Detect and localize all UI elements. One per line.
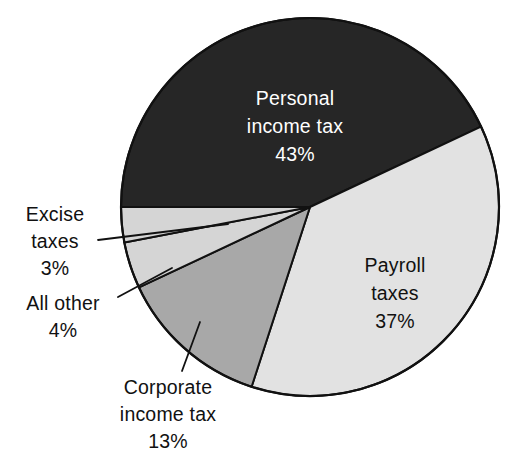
pie-chart: Personal income tax 43% Payroll taxes 37… <box>0 0 512 451</box>
pie-label-excise-taxes-line2: taxes <box>31 230 79 252</box>
pie-label-personal-income-tax-line1: Personal <box>256 87 335 109</box>
pie-label-payroll-taxes-value: 37% <box>375 310 415 332</box>
pie-label-payroll-taxes-line2: taxes <box>371 282 419 304</box>
pie-label-corporate-income-tax-line1: Corporate <box>124 376 213 398</box>
pie-label-personal-income-tax-line2: income tax <box>247 115 343 137</box>
pie-label-all-other-value: 4% <box>49 319 78 341</box>
pie-label-personal-income-tax-value: 43% <box>275 143 315 165</box>
pie-label-all-other-line1: All other <box>26 292 100 314</box>
pie-label-excise-taxes-line1: Excise <box>26 203 85 225</box>
pie-label-corporate-income-tax-value: 13% <box>148 430 188 451</box>
pie-chart-canvas: Personal income tax 43% Payroll taxes 37… <box>0 0 512 451</box>
pie-label-excise-taxes-value: 3% <box>41 257 70 279</box>
pie-label-payroll-taxes-line1: Payroll <box>364 254 425 276</box>
pie-label-corporate-income-tax-line2: income tax <box>120 403 216 425</box>
